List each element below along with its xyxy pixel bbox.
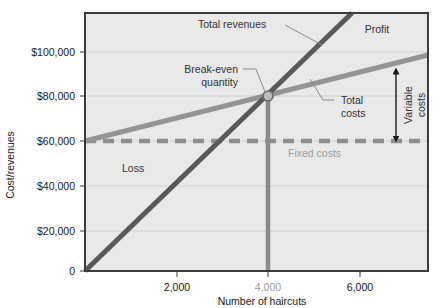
annotation-loss: Loss xyxy=(122,162,144,174)
y-tick-label-100000: $100,000 xyxy=(31,46,75,58)
x-tick-label-6000: 6,000 xyxy=(347,281,373,293)
y-tick-label-60000: $60,000 xyxy=(37,135,75,147)
y-tick-label-40000: $40,000 xyxy=(37,180,75,192)
annotation-variable-costs-line1: Variable xyxy=(402,86,414,124)
annotation-break-even-line1: Break-even xyxy=(184,63,238,75)
y-axis-title: Cost/revenues xyxy=(4,131,16,199)
break-even-chart-figure: $100,000 $80,000 $60,000 $40,000 $20,000… xyxy=(0,0,444,308)
y-tick-label-80000: $80,000 xyxy=(37,90,75,102)
y-tick-label-20000: $20,000 xyxy=(37,225,75,237)
annotation-total-revenues: Total revenues xyxy=(198,18,266,30)
chart-canvas: $100,000 $80,000 $60,000 $40,000 $20,000… xyxy=(0,0,444,308)
annotation-break-even-line2: quantity xyxy=(201,76,239,88)
annotation-total-costs-line1: Total xyxy=(341,94,363,106)
annotation-total-costs-line2: costs xyxy=(341,107,366,119)
x-axis-title: Number of haircuts xyxy=(218,295,307,307)
y-tick-label-0: 0 xyxy=(69,265,75,277)
x-tick-label-4000: 4,000 xyxy=(255,281,281,293)
break-even-marker xyxy=(263,91,273,101)
annotation-variable-costs-line2: costs xyxy=(415,93,427,118)
annotation-fixed-costs: Fixed costs xyxy=(288,147,341,159)
annotation-profit: Profit xyxy=(365,23,390,35)
x-tick-label-2000: 2,000 xyxy=(164,281,190,293)
